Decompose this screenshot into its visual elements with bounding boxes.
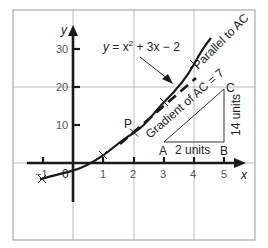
point-B-label: B (220, 144, 228, 158)
x-axis-label: x (240, 168, 248, 182)
svg-text:30: 30 (56, 43, 68, 55)
equation-label: y = x2 + 3x − 2 (102, 39, 180, 54)
vertical-leg-label: 14 units (229, 94, 243, 136)
parallel-annotation: Parallel to AC (190, 11, 252, 73)
x-axis-arrow-icon (234, 158, 246, 168)
equation-leader-line (140, 57, 168, 79)
horizontal-leg-label: 2 units (175, 143, 210, 157)
svg-text:2: 2 (130, 168, 136, 180)
svg-text:5: 5 (221, 168, 227, 180)
point-C-label: C (226, 81, 235, 95)
svg-text:20: 20 (56, 81, 68, 93)
y-axis-arrow-icon (68, 25, 78, 36)
gradient-diagram: y x −1 0 1 2 3 4 5 10 20 30 P y = x2 + 3… (0, 0, 268, 248)
svg-text:10: 10 (56, 119, 68, 131)
y-axis-label: y (60, 23, 68, 37)
y-tick-labels: 10 20 30 (56, 43, 68, 131)
point-P-label: P (124, 117, 132, 131)
svg-text:1: 1 (100, 168, 106, 180)
svg-text:4: 4 (190, 168, 196, 180)
x-axis (27, 157, 246, 168)
svg-text:3: 3 (160, 168, 166, 180)
point-A-label: A (159, 144, 167, 158)
y-axis (68, 25, 80, 202)
